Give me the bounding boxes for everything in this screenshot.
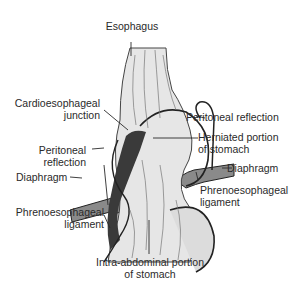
label-phrenoesophageal-ligament-left: Phrenoesophageal ligament [0, 206, 104, 230]
label-peritoneal-reflection-right: Peritoneal reflection [186, 111, 279, 123]
label-phreno-left-line2: ligament [0, 218, 104, 230]
label-cardioesophageal-line2: junction [0, 109, 100, 121]
label-herniated-line2: of stomach [198, 143, 279, 155]
label-peritoneal-left-line2: reflection [0, 156, 86, 168]
label-cardioesophageal-junction: Cardioesophageal junction [0, 97, 100, 121]
label-phreno-right-line2: ligament [200, 196, 288, 208]
label-intra-line1: Intra-abdominal portion [88, 256, 212, 268]
label-intra-abdominal-portion: Intra-abdominal portion of stomach [88, 256, 212, 280]
label-intra-line2: of stomach [88, 268, 212, 280]
label-esophagus: Esophagus [100, 20, 164, 32]
label-peritoneal-reflection-left: Peritoneal reflection [0, 144, 86, 168]
label-phreno-right-line1: Phrenoesophageal [200, 184, 288, 196]
label-phrenoesophageal-ligament-right: Phrenoesophageal ligament [200, 184, 288, 208]
label-peritoneal-left-line1: Peritoneal [0, 144, 86, 156]
label-phreno-left-line1: Phrenoesophageal [0, 206, 104, 218]
label-diaphragm-right: Diaphragm [227, 162, 278, 174]
label-herniated-line1: Herniated portion [198, 131, 279, 143]
label-cardioesophageal-line1: Cardioesophageal [0, 97, 100, 109]
label-diaphragm-left: Diaphragm [16, 171, 67, 183]
label-herniated-portion: Herniated portion of stomach [198, 131, 279, 155]
